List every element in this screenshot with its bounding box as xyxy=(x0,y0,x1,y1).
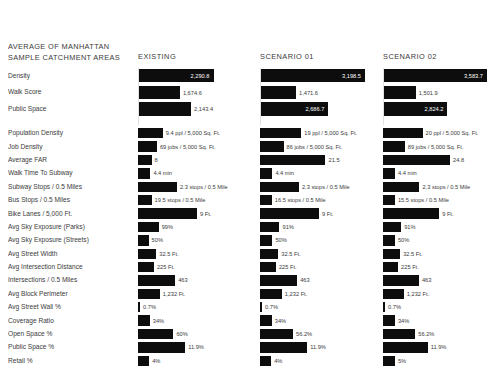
bar-value-label: 5% xyxy=(398,358,406,365)
bar-cell-scenario-01: 1,471.6 xyxy=(260,85,380,102)
bar-value-label: 463 xyxy=(178,277,188,284)
table-row: Density2,290.83,198.53,583.7 xyxy=(0,68,491,85)
bar-value-label: 1,232 Ft. xyxy=(285,291,307,298)
bar-value-label: 1,232 Ft. xyxy=(163,291,185,298)
bar xyxy=(138,222,159,232)
bar-value-label: 2.3 stops / 0.5 Mile xyxy=(422,184,470,191)
bar-cell-scenario-02: 225 Ft. xyxy=(383,261,491,274)
bar xyxy=(383,262,398,272)
bar xyxy=(260,342,307,352)
bar-cell-scenario-02: 0.7% xyxy=(383,301,491,314)
bar xyxy=(138,249,156,259)
bar-cell-existing: 463 xyxy=(138,274,258,287)
bar xyxy=(383,249,400,259)
bar xyxy=(260,195,272,205)
bar xyxy=(260,168,272,178)
bar-value-label: 91% xyxy=(404,224,415,231)
row-label: Avg Sky Exposure (Parks) xyxy=(8,223,134,231)
bar-value-label: 1,674.6 xyxy=(183,90,202,97)
bar-cell-scenario-02: 5% xyxy=(383,354,491,367)
bar-cell-scenario-01: 16.5 stops / 0.5 Mile xyxy=(260,194,380,207)
bar xyxy=(260,128,301,138)
bar-value-label: 2,686.7 xyxy=(305,106,324,113)
bar-cell-scenario-02: 15.5 stops / 0.5 Mile xyxy=(383,194,491,207)
table-row: Avg Sky Exposure (Streets)50%50%50% xyxy=(0,234,491,247)
bar xyxy=(138,168,150,178)
bar-cell-existing: 9 Ft. xyxy=(138,207,258,220)
bar xyxy=(383,86,416,99)
bar xyxy=(260,208,319,218)
bar-value-label: 19 ppl / 5,000 Sq. Ft. xyxy=(304,130,357,137)
bar xyxy=(383,329,415,339)
table-row: Population Density9.4 ppl / 5,000 Sq. Ft… xyxy=(0,127,491,140)
bar-cell-scenario-02: 2.3 stops / 0.5 Mile xyxy=(383,180,491,193)
bar-cell-existing: 2.3 stops / 0.5 Mile xyxy=(138,180,258,193)
row-label: Walk Score xyxy=(8,88,134,96)
table-row: Open Space %60%56.2%56.2% xyxy=(0,328,491,341)
bar-cell-scenario-01: 2.3 stops / 0.5 Mile xyxy=(260,180,380,193)
table-row: Avg Block Perimeter1,232 Ft.1,232 Ft.1,2… xyxy=(0,287,491,300)
bar-value-label: 9.4 ppl / 5,000 Sq. Ft. xyxy=(166,130,220,137)
table-row: Coverage Ratio34%34%34% xyxy=(0,314,491,327)
bar-value-label: 24.8 xyxy=(453,157,464,164)
bar-value-label: 0.7% xyxy=(388,304,401,311)
bar xyxy=(383,128,423,138)
bar xyxy=(138,208,197,218)
table-row: Avg Intersection Distance225 Ft.225 Ft.2… xyxy=(0,261,491,274)
column-guide-line xyxy=(260,68,261,125)
bar-cell-scenario-01: 86 jobs / 5,000 Sq. Ft. xyxy=(260,140,380,153)
bar-cell-scenario-01: 463 xyxy=(260,274,380,287)
row-label: Average FAR xyxy=(8,156,134,164)
bar-value-label: 34% xyxy=(275,318,286,325)
bar-cell-scenario-01: 21.5 xyxy=(260,154,380,167)
bar-value-label: 50% xyxy=(275,237,286,244)
bar-cell-existing: 34% xyxy=(138,314,258,327)
bar-cell-scenario-02: 50% xyxy=(383,234,491,247)
bar xyxy=(260,356,271,366)
bar-value-label: 69 jobs / 5,000 Sq. Ft. xyxy=(160,144,216,151)
row-label: Retail % xyxy=(8,357,134,365)
row-label: Coverage Ratio xyxy=(8,317,134,325)
row-label: Intersections / 0.5 Miles xyxy=(8,276,134,284)
bar-value-label: 3,583.7 xyxy=(464,73,483,80)
bar-value-label: 34% xyxy=(398,318,409,325)
row-label: Subway Stops / 0.5 Miles xyxy=(8,183,134,191)
bar-cell-existing: 0.7% xyxy=(138,301,258,314)
bar-cell-existing: 32.5 Ft. xyxy=(138,247,258,260)
bar-cell-existing: 225 Ft. xyxy=(138,261,258,274)
bar-cell-existing: 9.4 ppl / 5,000 Sq. Ft. xyxy=(138,127,258,140)
bar xyxy=(260,262,276,272)
bar xyxy=(383,356,395,366)
bar xyxy=(138,128,163,138)
bar-cell-scenario-02: 24.8 xyxy=(383,154,491,167)
bar-value-label: 11.9% xyxy=(188,344,204,351)
bar-cell-existing: 2,290.8 xyxy=(138,68,258,85)
bar-cell-scenario-01: 91% xyxy=(260,221,380,234)
bar xyxy=(260,302,262,312)
bar-cell-scenario-02: 1,232 Ft. xyxy=(383,287,491,300)
bar-cell-existing: 99% xyxy=(138,221,258,234)
bar-cell-existing: 19.5 stops / 0.5 Mile xyxy=(138,194,258,207)
bar-value-label: 50% xyxy=(398,237,409,244)
bar xyxy=(260,315,272,325)
bar-cell-existing: 1,674.6 xyxy=(138,85,258,102)
bar xyxy=(138,155,152,165)
bar xyxy=(260,329,293,339)
table-row: Bus Stops / 0.5 Miles19.5 stops / 0.5 Mi… xyxy=(0,194,491,207)
bar-value-label: 4.4 min xyxy=(275,170,294,177)
bar xyxy=(260,289,282,299)
bar-value-label: 1,471.6 xyxy=(299,90,318,97)
bar-value-label: 1,501.9 xyxy=(419,90,438,97)
bar-value-label: 32.5 Ft. xyxy=(159,251,178,258)
bar-cell-scenario-02: 3,583.7 xyxy=(383,68,491,85)
table-row: Retail %4%4%5% xyxy=(0,354,491,367)
bar xyxy=(138,356,149,366)
bar-value-label: 1,232 Ft. xyxy=(407,291,429,298)
bar xyxy=(138,86,180,99)
table-row: Walk Time To Subway4.4 min4.4 min4.4 min xyxy=(0,167,491,180)
bar xyxy=(383,141,405,151)
page-title: AVERAGE OF MANHATTAN SAMPLE CATCHMENT AR… xyxy=(8,42,138,63)
bar xyxy=(138,289,160,299)
bar-value-label: 2,290.8 xyxy=(191,73,210,80)
bar xyxy=(260,182,299,192)
